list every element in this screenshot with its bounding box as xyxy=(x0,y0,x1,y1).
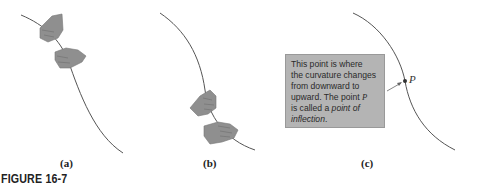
hand-icon-b-lower xyxy=(204,122,238,144)
note-em-point-of: point of xyxy=(332,103,360,113)
note-line-2: the curvature changes xyxy=(291,70,380,81)
note-em-inflection: inflection xyxy=(291,114,325,124)
note-line-3: from downward to xyxy=(291,81,380,92)
note-line-5: is called a point of xyxy=(291,103,380,114)
figure-caption: FIGURE 16-7 xyxy=(1,171,67,186)
note-line-4-text: upward. The point xyxy=(291,92,362,102)
inflection-note-box: This point is where the curvature change… xyxy=(285,54,385,128)
panel-label-b: (b) xyxy=(203,157,216,169)
note-line-1: This point is where xyxy=(291,59,380,70)
note-line-6-suffix: . xyxy=(325,114,327,124)
note-line-4: upward. The point P xyxy=(291,92,380,103)
point-p-label: P xyxy=(409,73,416,85)
hand-icon-a-lower xyxy=(55,48,86,68)
hand-icon-a-upper xyxy=(40,14,63,42)
note-line-6: inflection. xyxy=(291,114,380,125)
inflection-point xyxy=(403,79,407,83)
panel-label-a: (a) xyxy=(60,157,73,169)
hand-icon-b-upper xyxy=(190,90,216,116)
note-line-5-text: is called a xyxy=(291,103,332,113)
arrowhead-icon xyxy=(397,82,402,86)
panel-label-c: (c) xyxy=(361,157,373,169)
curve-a xyxy=(21,15,123,153)
note-var-p: P xyxy=(362,92,367,102)
